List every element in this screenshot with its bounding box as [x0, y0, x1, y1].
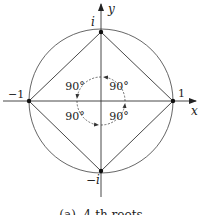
- angle-label-lower-left: 90°: [65, 110, 85, 123]
- x-axis-label: x: [191, 104, 198, 118]
- angle-label-lower-right: 90°: [109, 110, 129, 123]
- angle-label-upper-right: 90°: [109, 80, 129, 93]
- label-i: i: [91, 15, 95, 29]
- y-axis-label: y: [107, 2, 115, 16]
- label-one: 1: [178, 87, 185, 100]
- roots-diagram: 90° 90° 90° 90° y x 1 i −1 −i (a) 4-th r…: [0, 0, 201, 215]
- label-minus-one: −1: [8, 88, 24, 101]
- point-one: [171, 99, 175, 103]
- point-minus-one: [27, 99, 31, 103]
- figure-caption: (a) 4-th roots: [59, 208, 142, 215]
- point-i: [99, 30, 103, 34]
- label-minus-i: −i: [86, 173, 100, 187]
- angle-label-upper-left: 90°: [65, 80, 85, 93]
